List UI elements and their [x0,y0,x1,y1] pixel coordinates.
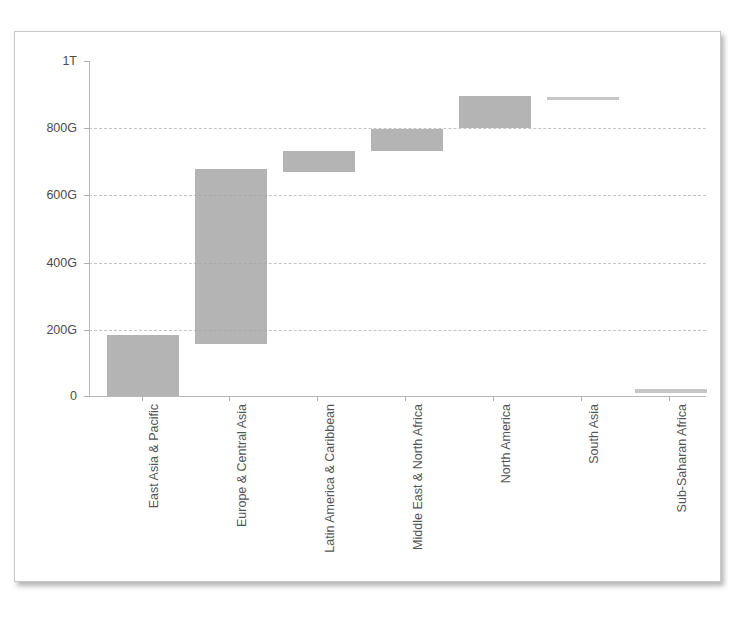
y-axis-label-200g: 200G [46,324,77,337]
y-axis-label-400g: 400G [46,257,77,270]
bar-europe-central-asia[interactable] [195,169,267,344]
y-axis-label-0: 0 [70,390,77,403]
y-tick-400g [84,263,90,264]
bar-east-asia-pacific[interactable] [107,335,179,396]
y-tick-1t [84,61,90,62]
y-axis-label-800g: 800G [46,122,77,135]
x-tick-europe-central-asia [229,396,230,401]
bar-north-america[interactable] [459,96,531,128]
x-axis-line [89,396,706,397]
x-tick-middle-east-north-africa [405,396,406,401]
y-axis-label-600g: 600G [46,189,77,202]
x-tick-east-asia-pacific [142,396,143,401]
x-tick-south-asia [581,396,582,401]
screenshot-root: 1T 800G 600G 400G 200G 0 East Asia & [0,0,755,619]
gridline-600g [89,195,706,196]
bar-south-asia[interactable] [547,97,619,100]
y-tick-600g [84,195,90,196]
x-axis-label-sub-saharan-africa: Sub-Saharan Africa [676,404,689,512]
gridline-200g [89,330,706,331]
plot-area: 1T 800G 600G 400G 200G 0 East Asia & [15,32,722,583]
bar-latin-america-caribbean[interactable] [283,151,355,172]
y-tick-800g [84,128,90,129]
y-axis-line [89,61,90,397]
x-axis-label-east-asia-pacific: East Asia & Pacific [148,404,161,508]
y-tick-0 [84,396,90,397]
bar-middle-east-north-africa[interactable] [371,129,443,151]
gridline-400g [89,263,706,264]
y-axis-label-1t: 1T [62,55,77,68]
x-tick-sub-saharan-africa [669,396,670,401]
x-tick-latin-america-caribbean [317,396,318,401]
chart-frame: 1T 800G 600G 400G 200G 0 East Asia & [14,31,721,582]
x-axis-label-south-asia: South Asia [588,404,601,464]
x-axis-label-latin-america-caribbean: Latin America & Caribbean [324,404,337,553]
x-axis-label-middle-east-north-africa: Middle East & North Africa [412,404,425,550]
x-axis-label-europe-central-asia: Europe & Central Asia [236,404,249,527]
y-tick-200g [84,330,90,331]
bar-sub-saharan-africa[interactable] [635,389,707,393]
x-axis-label-north-america: North America [500,404,513,483]
x-tick-north-america [493,396,494,401]
